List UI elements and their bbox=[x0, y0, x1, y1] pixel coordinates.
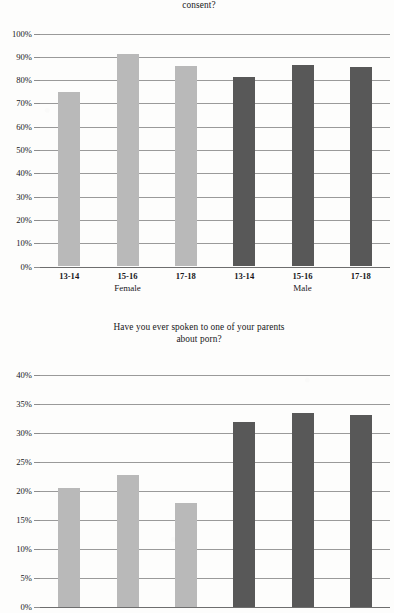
x-axis-tick-label: 17-18 bbox=[157, 271, 215, 281]
chart-top-title-line-1: consent? bbox=[46, 0, 352, 12]
chart-bottom: Have you ever spoken to one of your pare… bbox=[0, 322, 394, 613]
y-axis-tick-mark bbox=[34, 520, 40, 521]
bar-female-17-18 bbox=[175, 66, 197, 266]
y-axis-tick-mark bbox=[34, 433, 40, 434]
x-axis-tick-label: 13-14 bbox=[40, 271, 98, 281]
chart-bottom-title-line-1: Have you ever spoken to one of your pare… bbox=[46, 322, 352, 334]
y-axis-tick-mark bbox=[34, 57, 40, 58]
gridline bbox=[40, 433, 390, 434]
y-axis-tick-mark bbox=[34, 462, 40, 463]
gridline bbox=[40, 243, 390, 244]
group-label-female: Female bbox=[40, 283, 215, 293]
y-axis-tick-label: 30% bbox=[16, 429, 32, 438]
y-axis-tick-mark bbox=[34, 103, 40, 104]
gridline bbox=[40, 57, 390, 58]
chart-top-plot-area: 100%90%80%70%60%50%40%30%20%10%0%13-1415… bbox=[0, 12, 394, 308]
chart-bottom-title-line-2: about porn? bbox=[46, 334, 352, 346]
y-axis-tick-mark bbox=[34, 34, 40, 35]
x-axis-tick-label: 15-16 bbox=[273, 271, 331, 281]
y-axis-tick-mark bbox=[34, 197, 40, 198]
bar-male-13-14 bbox=[233, 77, 255, 267]
gridline bbox=[40, 549, 390, 550]
gridline bbox=[40, 462, 390, 463]
y-axis-tick-label: 100% bbox=[12, 29, 32, 38]
bar-female-15-16 bbox=[117, 54, 139, 266]
y-axis-tick-mark bbox=[34, 220, 40, 221]
y-axis-tick-label: 50% bbox=[16, 146, 32, 155]
chart-bottom-plot-area: 40%35%30%25%20%15%10%5%0%13-1415-1617-18… bbox=[0, 345, 394, 613]
x-axis-tick-label: 13-14 bbox=[215, 271, 273, 281]
gridline bbox=[40, 375, 390, 376]
gridline bbox=[40, 150, 390, 151]
bar-male-15-16 bbox=[292, 413, 314, 607]
y-axis-tick-label: 15% bbox=[16, 516, 32, 525]
y-axis-tick-mark bbox=[34, 173, 40, 174]
y-axis-tick-label: 10% bbox=[16, 545, 32, 554]
y-axis-tick-label: 80% bbox=[16, 76, 32, 85]
group-label-male: Male bbox=[215, 283, 390, 293]
x-axis-tick-label: 15-16 bbox=[98, 271, 156, 281]
x-axis-tick-label: 17-18 bbox=[332, 271, 390, 281]
y-axis-tick-mark bbox=[34, 80, 40, 81]
gridline bbox=[40, 197, 390, 198]
y-axis-tick-label: 0% bbox=[21, 603, 32, 612]
y-axis-tick-mark bbox=[34, 549, 40, 550]
bar-female-13-14 bbox=[58, 488, 80, 607]
y-axis-tick-label: 0% bbox=[21, 262, 32, 271]
chart-bottom-title: Have you ever spoken to one of your pare… bbox=[0, 322, 394, 345]
y-axis-tick-label: 30% bbox=[16, 192, 32, 201]
bar-male-17-18 bbox=[350, 415, 372, 607]
gridline bbox=[40, 34, 390, 35]
y-axis-tick-mark bbox=[34, 491, 40, 492]
y-axis-tick-mark bbox=[34, 578, 40, 579]
y-axis-tick-mark bbox=[34, 404, 40, 405]
y-axis-tick-label: 70% bbox=[16, 99, 32, 108]
y-axis-tick-label: 90% bbox=[16, 52, 32, 61]
axis-baseline bbox=[40, 267, 390, 268]
gridline bbox=[40, 491, 390, 492]
y-axis-tick-label: 25% bbox=[16, 458, 32, 467]
gridline bbox=[40, 578, 390, 579]
y-axis-tick-mark bbox=[34, 150, 40, 151]
bar-female-17-18 bbox=[175, 503, 197, 607]
axis-baseline bbox=[40, 607, 390, 608]
y-axis-tick-label: 20% bbox=[16, 215, 32, 224]
document-page: consent? 100%90%80%70%60%50%40%30%20%10%… bbox=[0, 0, 394, 613]
y-axis-tick-label: 10% bbox=[16, 239, 32, 248]
y-axis-tick-mark bbox=[34, 127, 40, 128]
bar-female-15-16 bbox=[117, 475, 139, 607]
gridline bbox=[40, 173, 390, 174]
bar-male-17-18 bbox=[350, 67, 372, 266]
gridline bbox=[40, 404, 390, 405]
y-axis-tick-label: 20% bbox=[16, 487, 32, 496]
gridline bbox=[40, 127, 390, 128]
y-axis-tick-label: 40% bbox=[16, 371, 32, 380]
y-axis-tick-mark bbox=[34, 375, 40, 376]
y-axis-tick-label: 5% bbox=[21, 574, 32, 583]
gridline bbox=[40, 220, 390, 221]
chart-top-title: consent? bbox=[0, 0, 394, 12]
y-axis-tick-mark bbox=[34, 243, 40, 244]
y-axis-tick-label: 40% bbox=[16, 169, 32, 178]
gridline bbox=[40, 103, 390, 104]
chart-top: consent? 100%90%80%70%60%50%40%30%20%10%… bbox=[0, 0, 394, 308]
y-axis-tick-mark bbox=[34, 607, 40, 608]
y-axis-tick-label: 60% bbox=[16, 122, 32, 131]
y-axis-tick-label: 35% bbox=[16, 400, 32, 409]
bar-male-13-14 bbox=[233, 422, 255, 607]
bar-female-13-14 bbox=[58, 92, 80, 266]
gridline bbox=[40, 80, 390, 81]
gridline bbox=[40, 520, 390, 521]
y-axis-tick-mark bbox=[34, 267, 40, 268]
bar-male-15-16 bbox=[292, 65, 314, 267]
